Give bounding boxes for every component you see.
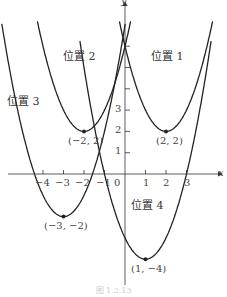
x-tick-3: 3 xyxy=(184,178,190,188)
x-tick-m1: −1 xyxy=(96,178,111,188)
y-axis-label: y xyxy=(121,0,127,6)
figure-caption: 图 1.2.13 xyxy=(0,284,227,295)
y-tick-2: 2 xyxy=(115,125,121,135)
x-tick-1: 1 xyxy=(143,178,149,188)
y-tick-3: 3 xyxy=(115,104,121,114)
x-axis-label: x xyxy=(218,168,224,178)
label-position-3: 位置 3 xyxy=(7,96,40,107)
y-tick-1: 1 xyxy=(115,146,121,156)
vertex-label-4: (1, −4) xyxy=(131,264,166,274)
x-tick-m4: −4 xyxy=(35,178,50,188)
x-tick-m2: −2 xyxy=(75,178,90,188)
label-position-2: 位置 2 xyxy=(63,51,96,62)
x-tick-m3: −3 xyxy=(55,178,70,188)
vertex-label-1: (2, 2) xyxy=(156,136,183,146)
x-tick-0: 0 xyxy=(114,178,120,188)
parabola-chart xyxy=(0,0,227,297)
label-position-1: 位置 1 xyxy=(151,51,184,62)
x-tick-2: 2 xyxy=(163,178,169,188)
label-position-4: 位置 4 xyxy=(131,200,164,211)
vertex-label-3: (−3, −2) xyxy=(44,221,88,231)
vertex-label-2: (−2, 2) xyxy=(68,136,103,146)
